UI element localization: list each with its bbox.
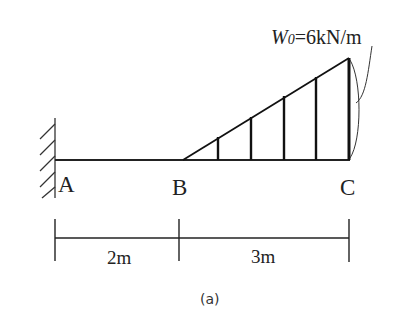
load-leader-line	[350, 46, 372, 158]
distributed-load-triangle	[183, 58, 349, 160]
dimension-label-bc: 3m	[251, 246, 276, 267]
point-label-c: C	[340, 175, 355, 200]
beam-diagram: W0=6kN/m A B C 2m 3m (a)	[0, 0, 416, 327]
point-label-b: B	[172, 175, 187, 200]
dimension-label-ab: 2m	[107, 247, 132, 268]
fixed-support-wall	[40, 118, 55, 198]
point-label-a: A	[58, 172, 75, 197]
dimension-line	[55, 219, 349, 262]
figure-caption: (a)	[200, 291, 220, 307]
load-label: W0=6kN/m	[271, 26, 362, 48]
